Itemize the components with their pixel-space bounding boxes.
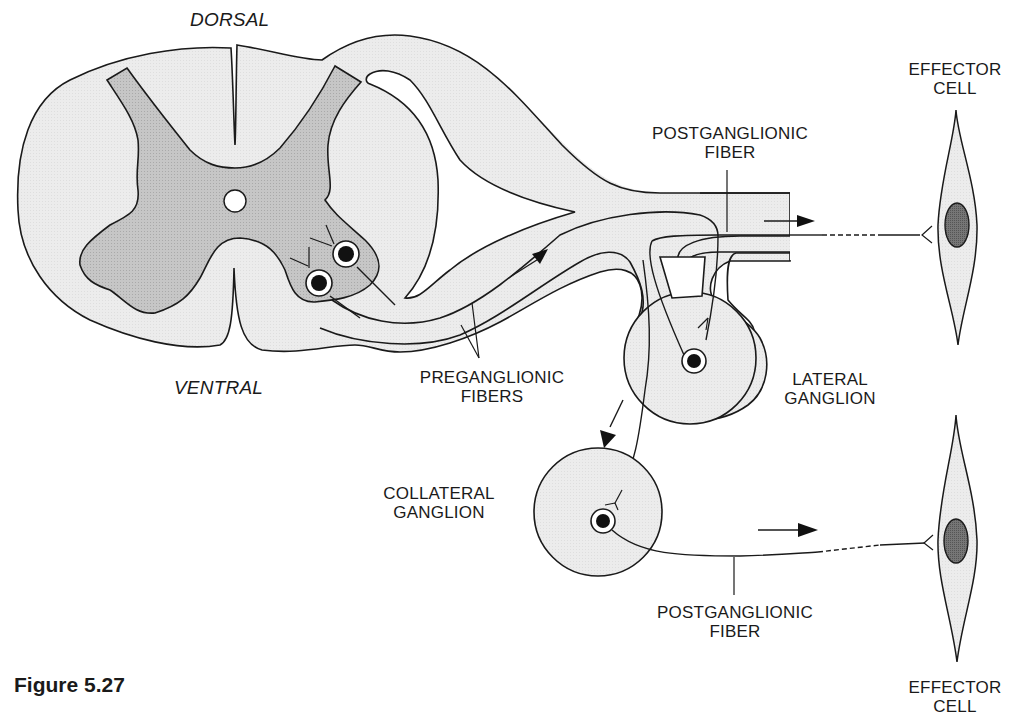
- effector-cell-lower-label: EFFECTOR CELL: [895, 678, 1015, 712]
- figure-title: Figure 5.27: [14, 673, 125, 697]
- central-canal: [224, 190, 246, 212]
- effector-cell-upper-label: EFFECTOR CELL: [895, 60, 1015, 98]
- ventral-label: VENTRAL: [174, 378, 263, 397]
- collateral-direction-arrow: [600, 400, 623, 448]
- effector-cell-upper: [938, 110, 977, 345]
- effector-cell-lower: [938, 415, 977, 662]
- autonomic-pathway-diagram: [0, 0, 1029, 712]
- preganglionic-fibers-label: PREGANGLIONIC FIBERS: [402, 368, 582, 406]
- collateral-ganglion-label: COLLATERAL GANGLION: [364, 484, 514, 522]
- postganglionic-upper-label: POSTGANGLIONIC FIBER: [635, 124, 825, 162]
- postganglionic-lower-label: POSTGANGLIONIC FIBER: [630, 603, 840, 641]
- dorsal-label: DORSAL: [190, 10, 269, 29]
- lower-direction-arrow: [758, 523, 818, 537]
- lateral-ganglion-label: LATERAL GANGLION: [770, 370, 890, 408]
